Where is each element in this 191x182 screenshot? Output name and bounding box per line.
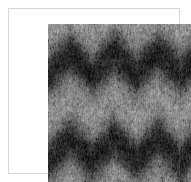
texture-image [48, 24, 191, 182]
image-viewport [0, 0, 191, 182]
texture-plate [48, 24, 191, 182]
